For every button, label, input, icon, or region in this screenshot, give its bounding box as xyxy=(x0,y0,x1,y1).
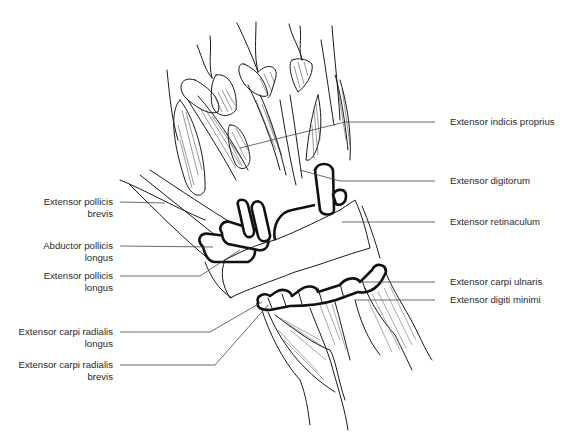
label-line2: brevis xyxy=(44,208,113,220)
leader-lines xyxy=(120,122,435,365)
label-extensor-carpi-ulnaris: Extensor carpi ulnaris xyxy=(450,276,542,288)
label-line2: longus xyxy=(19,338,113,350)
label-line1: Extensor carpi radialis xyxy=(19,326,113,338)
label-line2: longus xyxy=(44,282,113,294)
label-abductor-pollicis-longus: Abductor pollicis longus xyxy=(43,240,113,264)
label-extensor-retinaculum: Extensor retinaculum xyxy=(450,216,540,228)
label-extensor-pollicis-longus: Extensor pollicis longus xyxy=(44,270,113,294)
tendon-outlines xyxy=(199,164,346,262)
label-line1: Extensor pollicis xyxy=(44,196,113,208)
label-extensor-pollicis-brevis: Extensor pollicis brevis xyxy=(44,196,113,220)
label-extensor-carpi-radialis-longus: Extensor carpi radialis longus xyxy=(19,326,113,350)
label-extensor-digitorum: Extensor digitorum xyxy=(450,175,530,187)
label-line2: brevis xyxy=(19,371,113,383)
label-line2: longus xyxy=(43,252,113,264)
label-extensor-carpi-radialis-brevis: Extensor carpi radialis brevis xyxy=(19,359,113,383)
label-line1: Abductor pollicis xyxy=(43,240,113,252)
label-extensor-digiti-minimi: Extensor digiti minimi xyxy=(450,294,541,306)
label-extensor-indicis-proprius: Extensor indicis proprius xyxy=(450,116,555,128)
label-line1: Extensor pollicis xyxy=(44,270,113,282)
label-line1: Extensor carpi radialis xyxy=(19,359,113,371)
